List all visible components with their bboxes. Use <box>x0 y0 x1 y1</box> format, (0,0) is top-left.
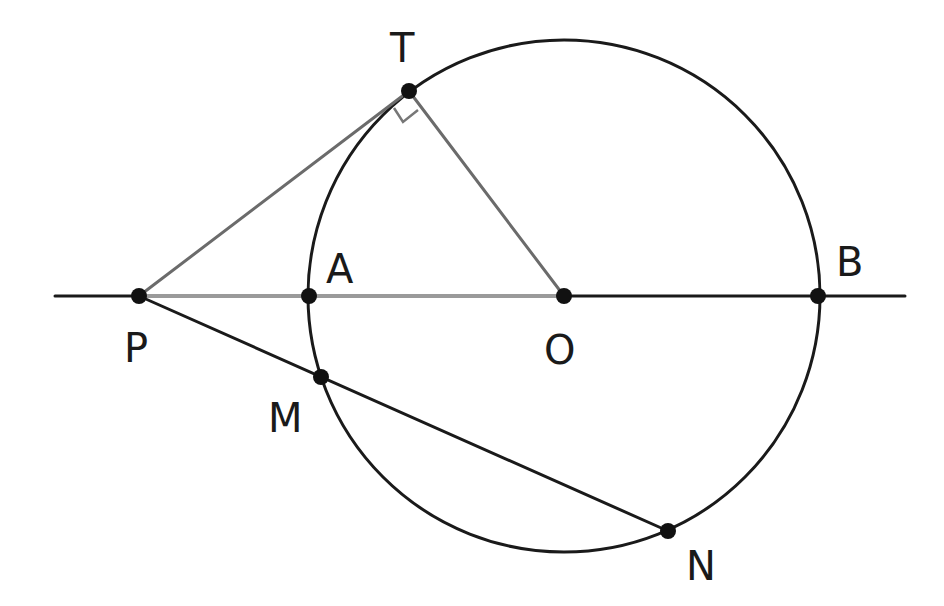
point-M <box>313 369 329 385</box>
label-B: B <box>836 239 863 285</box>
label-A: A <box>326 246 354 292</box>
label-P: P <box>124 325 148 371</box>
point-A <box>301 288 317 304</box>
point-P <box>131 288 147 304</box>
label-M: M <box>268 395 303 441</box>
point-O <box>556 288 572 304</box>
label-N: N <box>686 543 716 589</box>
label-O: O <box>544 327 575 373</box>
point-B <box>810 288 826 304</box>
point-N <box>660 523 676 539</box>
point-T <box>401 83 417 99</box>
geometry-diagram: TPAOBMN <box>0 0 944 606</box>
label-T: T <box>389 25 415 71</box>
